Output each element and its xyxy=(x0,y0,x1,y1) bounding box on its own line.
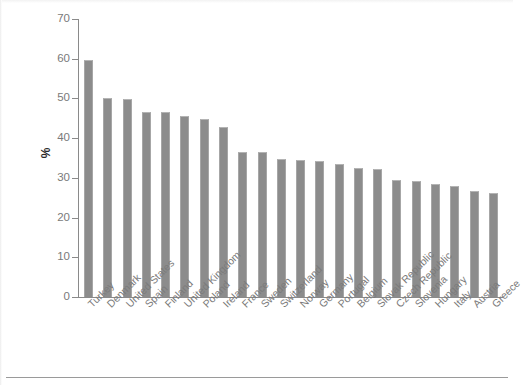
bar[interactable] xyxy=(470,191,479,297)
y-axis-tick-value: 20 xyxy=(46,212,70,224)
bar[interactable] xyxy=(84,60,93,297)
bar-slot xyxy=(137,19,156,297)
y-axis-tick-mark xyxy=(72,138,79,139)
y-axis-tick-value: 60 xyxy=(46,53,70,65)
y-axis-tick-value: 50 xyxy=(46,92,70,104)
footer-divider xyxy=(6,377,508,378)
bar-slot xyxy=(310,19,329,297)
bar-slot xyxy=(98,19,117,297)
bar[interactable] xyxy=(123,99,132,297)
y-axis-tick-value: 10 xyxy=(46,251,70,263)
bar-slot xyxy=(291,19,310,297)
bar-slot xyxy=(252,19,271,297)
y-axis-tick-value: 40 xyxy=(46,132,70,144)
y-axis-tick-mark xyxy=(72,257,79,258)
y-axis-tick-mark xyxy=(72,98,79,99)
y-axis-tick-value: 70 xyxy=(46,13,70,25)
bar-slot xyxy=(464,19,483,297)
bar-slot xyxy=(79,19,98,297)
y-axis-tick-mark xyxy=(72,19,79,20)
y-axis-tick-value: 30 xyxy=(46,172,70,184)
y-axis-tick-value: 0 xyxy=(46,291,70,303)
bar[interactable] xyxy=(103,98,112,297)
bar[interactable] xyxy=(258,152,267,297)
bar-slot xyxy=(349,19,368,297)
y-axis-tick-mark xyxy=(72,297,79,298)
bar-slot xyxy=(387,19,406,297)
bar-slot xyxy=(330,19,349,297)
bar-slot xyxy=(484,19,503,297)
bar-slot xyxy=(195,19,214,297)
bar-slot xyxy=(175,19,194,297)
y-axis-tick-mark xyxy=(72,59,79,60)
bar[interactable] xyxy=(180,116,189,297)
bar-slot xyxy=(156,19,175,297)
y-axis-tick-mark xyxy=(72,218,79,219)
bar[interactable] xyxy=(238,152,247,297)
bar-slot xyxy=(272,19,291,297)
y-axis-tick-mark xyxy=(72,178,79,179)
bar-slot xyxy=(368,19,387,297)
bar-slot xyxy=(118,19,137,297)
bar[interactable] xyxy=(200,119,209,297)
bar[interactable] xyxy=(142,112,151,297)
